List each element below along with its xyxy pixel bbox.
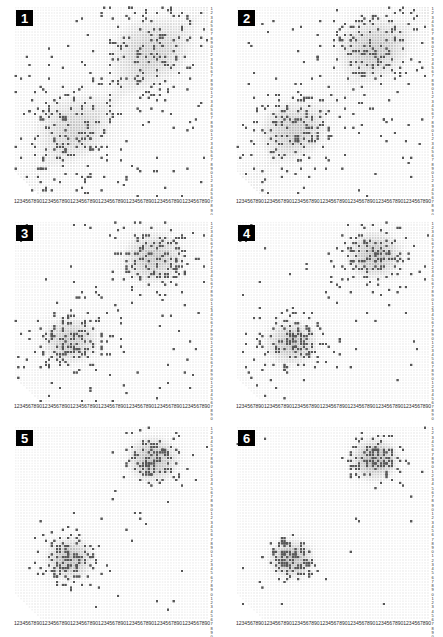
y-axis-labels-6: 1234567890123456789012345678901234567890… — [430, 426, 435, 631]
x-axis-labels-4: 1234567890123456789012345678901234567890… — [236, 403, 430, 409]
panel-2: 2 12345678901234567890123456789012345678… — [222, 0, 443, 215]
panel-badge-6: 6 — [238, 430, 255, 446]
plot-area-4 — [236, 221, 429, 402]
plot-area-5 — [14, 426, 208, 619]
panel-badge-2: 2 — [238, 10, 255, 26]
y-axis-labels-5: 1234567890123456789012345678901234567890… — [209, 426, 214, 631]
panel-badge-3: 3 — [16, 225, 33, 241]
panel-1: 1 12345678901234567890123456789012345678… — [0, 0, 222, 215]
y-axis-labels-1: 1234567890123456789012345678901234567890… — [209, 6, 214, 206]
x-axis-labels-5: 1234567890123456789012345678901234567890… — [14, 620, 210, 626]
x-axis-labels-2: 1234567890123456789012345678901234567890… — [236, 198, 430, 204]
x-axis-labels-1: 1234567890123456789012345678901234567890… — [14, 198, 210, 204]
plot-area-1 — [14, 6, 208, 197]
plot-area-3 — [14, 221, 208, 402]
x-axis-labels-3: 1234567890123456789012345678901234567890… — [14, 403, 210, 409]
panel-badge-4: 4 — [238, 225, 255, 241]
panel-4: 4 12345678901234567890123456789012345678… — [222, 215, 443, 420]
x-axis-labels-6: 1234567890123456789012345678901234567890… — [236, 620, 430, 626]
y-axis-labels-4: 1234567890123456789012345678901234567890… — [430, 221, 435, 401]
panel-6: 6 12345678901234567890123456789012345678… — [222, 420, 443, 637]
panel-badge-1: 1 — [16, 10, 33, 26]
plot-area-6 — [236, 426, 429, 619]
panel-badge-5: 5 — [16, 430, 33, 446]
plot-area-2 — [236, 6, 429, 197]
panel-grid: 1 12345678901234567890123456789012345678… — [0, 0, 443, 637]
panel-3: 3 12345678901234567890123456789012345678… — [0, 215, 222, 420]
y-axis-labels-2: 1234567890123456789012345678901234567890… — [430, 6, 435, 206]
panel-5: 5 12345678901234567890123456789012345678… — [0, 420, 222, 637]
y-axis-labels-3: 1234567890123456789012345678901234567890… — [209, 221, 214, 401]
